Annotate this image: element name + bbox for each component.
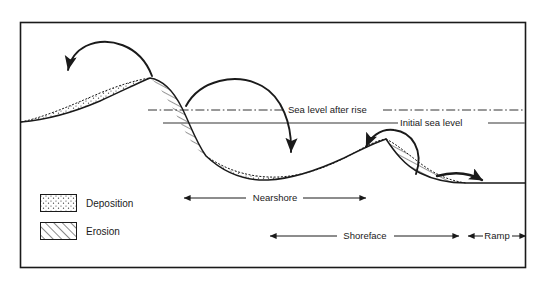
legend-item-deposition: Deposition	[41, 195, 134, 212]
diagram-canvas: Sea level after rise Initial sea level D…	[0, 0, 546, 283]
transport-arrow-2	[186, 79, 291, 152]
sea-level-after-rise-label: Sea level after rise	[288, 104, 367, 115]
zone-label-shoreface: Shoreface	[343, 230, 386, 241]
legend-label-erosion: Erosion	[86, 226, 120, 237]
legend-label-deposition: Deposition	[86, 198, 133, 209]
zone-scale-shoreface: Shoreface	[270, 230, 459, 241]
erosion-swatch	[41, 223, 77, 240]
zone-label-nearshore: Nearshore	[253, 192, 297, 203]
zone-scale-ramp: Ramp	[468, 230, 526, 241]
deposition-wedge-left	[21, 78, 150, 122]
legend: Deposition Erosion	[41, 195, 134, 240]
transport-arrow-1	[68, 42, 152, 76]
sea-level-after-rise: Sea level after rise	[148, 104, 525, 115]
initial-sea-level-label: Initial sea level	[400, 117, 462, 128]
zone-scale-nearshore: Nearshore	[184, 192, 366, 203]
zone-label-ramp: Ramp	[484, 230, 509, 241]
legend-item-erosion: Erosion	[41, 223, 120, 240]
coastal-profile-diagram: Sea level after rise Initial sea level D…	[0, 0, 546, 283]
initial-sea-level: Initial sea level	[163, 117, 525, 128]
deposition-swatch	[41, 195, 77, 212]
erosion-wedge-upper	[150, 78, 206, 156]
